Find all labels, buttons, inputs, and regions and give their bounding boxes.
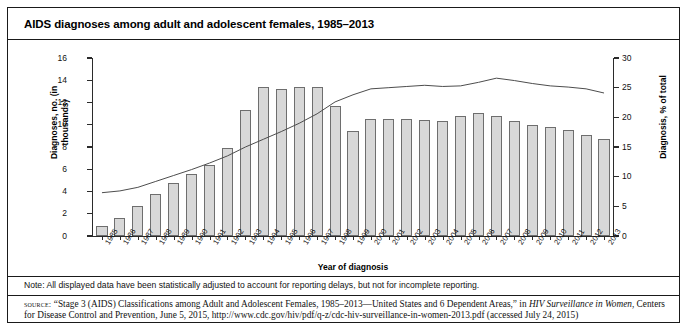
y-axis-left-tick-label: 2: [62, 209, 67, 218]
x-axis-tick: [461, 236, 462, 240]
y-axis-left-tick-label: 0: [62, 232, 67, 241]
x-axis-tick: [210, 236, 211, 240]
y-axis-left-tick-label: 12: [58, 98, 67, 107]
x-axis-tick: [156, 236, 157, 240]
y-axis-title-right: Diagnosis, % of total: [658, 62, 668, 172]
y-axis-right-tick: [614, 176, 619, 177]
y-axis-right-tick: [614, 206, 619, 207]
x-axis-tick: [120, 236, 121, 240]
x-axis-tick: [496, 236, 497, 240]
y-axis-right-tick-label: 10: [622, 172, 631, 181]
x-axis-tick: [263, 236, 264, 240]
x-axis-tick: [443, 236, 444, 240]
source-text-part-1: “Stage 3 (AIDS) Classifications among Ad…: [51, 299, 528, 309]
y-axis-right-tick-label: 0: [622, 232, 627, 241]
x-axis-tick: [353, 236, 354, 240]
y-axis-left-tick-label: 6: [62, 165, 67, 174]
x-axis-tick: [514, 236, 515, 240]
x-axis-tick: [317, 236, 318, 240]
percent-of-total-line: [102, 78, 604, 193]
figure-source: source: “Stage 3 (AIDS) Classifications …: [24, 299, 666, 322]
y-axis-left-tick-label: 8: [62, 143, 67, 152]
x-axis-tick: [281, 236, 282, 240]
figure-frame: AIDS diagnoses among adult and adolescen…: [7, 7, 680, 323]
y-axis-title-right-text: Diagnosis, % of total: [658, 75, 668, 159]
x-axis-tick: [227, 236, 228, 240]
y-axis-right-tick-label: 15: [622, 143, 631, 152]
x-axis-tick: [138, 236, 139, 240]
note-divider-bottom: [8, 295, 679, 296]
y-axis-right-tick: [614, 146, 619, 147]
y-axis-left-tick-label: 14: [58, 76, 67, 85]
x-axis-tick: [335, 236, 336, 240]
x-axis-tick: [299, 236, 300, 240]
y-axis-right-tick-label: 30: [622, 54, 631, 63]
x-axis-tick: [586, 236, 587, 240]
y-axis-right-tick-label: 5: [622, 202, 627, 211]
x-axis-tick: [550, 236, 551, 240]
y-axis-left-tick: [87, 102, 92, 103]
x-axis-tick: [174, 236, 175, 240]
chart-plot-wrapper: Diagnoses, no. (in thousands) Diagnosis,…: [8, 8, 679, 322]
x-axis-tick: [192, 236, 193, 240]
y-axis-right-tick-label: 20: [622, 113, 631, 122]
y-axis-left-tick: [87, 235, 92, 236]
note-divider-top: [8, 276, 679, 277]
x-axis-tick: [568, 236, 569, 240]
x-axis-tick: [425, 236, 426, 240]
y-axis-left-tick: [87, 124, 92, 125]
y-axis-left-tick-label: 4: [62, 187, 67, 196]
x-axis-title: Year of diagnosis: [93, 262, 613, 272]
x-axis-tick: [102, 236, 103, 240]
y-axis-left-tick: [87, 213, 92, 214]
x-axis-tick: [532, 236, 533, 240]
y-axis-right-tick-label: 25: [622, 83, 631, 92]
y-axis-left-tick-label: 16: [58, 54, 67, 63]
y-axis-left-tick: [87, 169, 92, 170]
x-axis-tick: [371, 236, 372, 240]
y-axis-right-tick: [614, 57, 619, 58]
y-axis-left-tick: [87, 191, 92, 192]
x-axis-tick: [389, 236, 390, 240]
y-axis-right-tick: [614, 117, 619, 118]
x-axis-tick: [604, 236, 605, 240]
x-axis-tick: [407, 236, 408, 240]
y-axis-left-tick-label: 10: [58, 120, 67, 129]
y-axis-left-tick: [87, 80, 92, 81]
x-axis-tick: [479, 236, 480, 240]
source-publication-title: HIV Surveillance in Women: [529, 299, 632, 309]
y-axis-right-tick: [614, 87, 619, 88]
line-series-layer: [93, 58, 613, 236]
y-axis-left-tick: [87, 146, 92, 147]
figure-note: Note: All displayed data have been stati…: [24, 280, 479, 291]
x-axis-tick: [245, 236, 246, 240]
y-axis-left-tick: [87, 57, 92, 58]
source-label: source:: [24, 299, 51, 309]
